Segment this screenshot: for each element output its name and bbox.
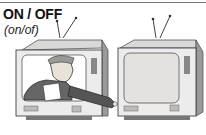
flashcard: ON / OFF (on/of) bbox=[0, 0, 206, 135]
tv-illustration bbox=[0, 0, 206, 135]
left-tv-antenna-icon bbox=[57, 18, 76, 38]
right-tv-icon bbox=[118, 40, 203, 120]
right-tv-antenna-icon bbox=[153, 16, 170, 38]
